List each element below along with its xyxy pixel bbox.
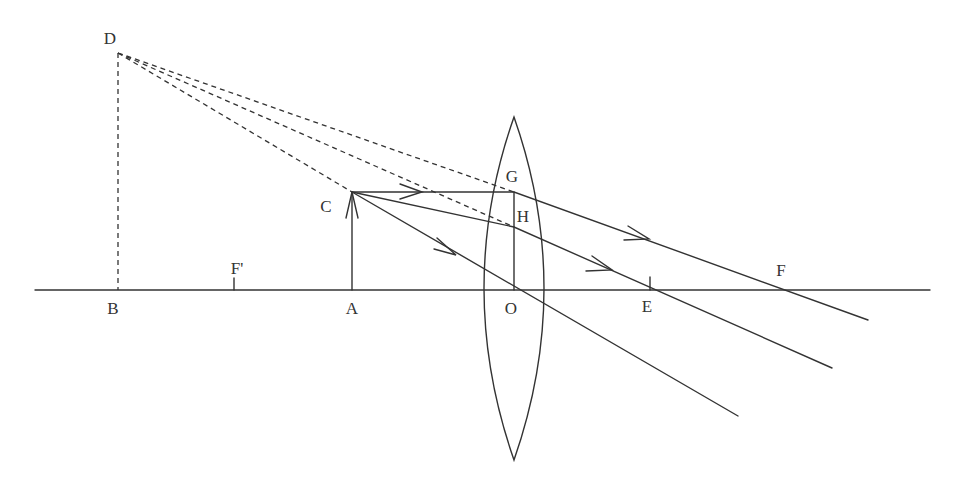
label-g: G — [506, 168, 518, 185]
label-o: O — [505, 300, 517, 317]
label-h: H — [517, 208, 529, 225]
label-b: B — [107, 300, 118, 317]
convex-lens-ray-diagram — [0, 0, 956, 496]
label-e: E — [642, 298, 652, 315]
label-f: F — [776, 262, 785, 279]
parallel-ray — [352, 192, 868, 320]
virtual-ray-d-g — [118, 53, 514, 192]
label-c: C — [320, 198, 331, 215]
central-ray — [352, 192, 738, 416]
virtual-ray-d-h — [118, 53, 514, 227]
label-d: D — [104, 30, 116, 47]
label-a: A — [346, 300, 358, 317]
ray-through-h — [352, 192, 832, 368]
label-f-prime: F' — [231, 260, 244, 277]
